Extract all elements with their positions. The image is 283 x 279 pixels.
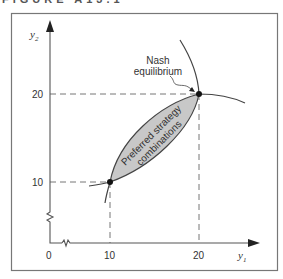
- lower-intersection-point: [107, 179, 113, 185]
- origin-label: 0: [46, 250, 52, 261]
- y-tick-10: 10: [32, 177, 44, 188]
- x-axis-arrow-icon: [248, 239, 260, 247]
- nash-pointer: [170, 76, 192, 90]
- x-tick-20: 20: [193, 250, 205, 261]
- nash-equilibrium-point: [196, 91, 202, 97]
- y-axis-label: y2: [29, 28, 39, 43]
- x-tick-10: 10: [104, 250, 116, 261]
- y-tick-20: 20: [32, 89, 44, 100]
- nash-diagram: y2 y1 20 10 0 10 20 Nash equilibrium Pre…: [0, 0, 283, 279]
- nash-label-line2: equilibrium: [134, 66, 182, 77]
- x-axis-label: y1: [237, 249, 246, 264]
- y-axis: [47, 28, 62, 243]
- x-axis: [62, 240, 252, 246]
- nash-label-line1: Nash: [146, 55, 169, 66]
- y-axis-arrow-icon: [46, 20, 54, 32]
